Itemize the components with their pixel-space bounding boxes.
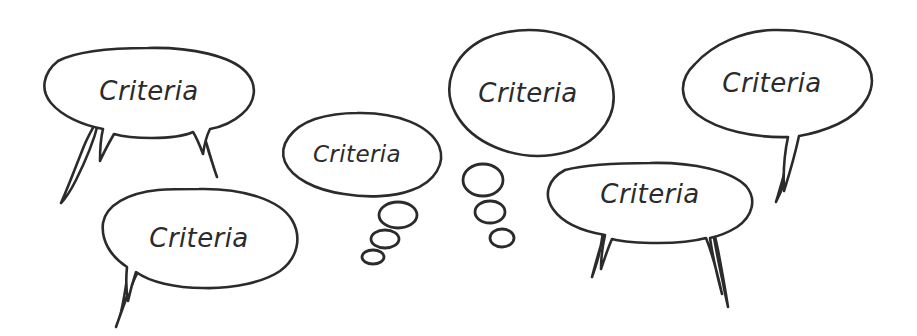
bubble-bottom-left[interactable]: Criteria bbox=[103, 189, 298, 327]
bubble-bottom-right[interactable]: Criteria bbox=[548, 163, 752, 307]
bubble-top-left-tail-left bbox=[61, 121, 98, 203]
thought-dot-center-1 bbox=[463, 164, 503, 196]
diagram-canvas: Criteria Criteria Criteria Criteria bbox=[0, 0, 917, 336]
bubble-top-right-label: Criteria bbox=[722, 68, 821, 98]
bubble-middle-small[interactable]: Criteria bbox=[283, 113, 441, 264]
thought-dot-middle-3 bbox=[362, 250, 384, 264]
bubble-top-right-outline bbox=[683, 30, 872, 191]
bubble-top-left-label: Criteria bbox=[99, 76, 198, 106]
bubble-middle-small-label: Criteria bbox=[313, 141, 401, 167]
thought-dot-center-2 bbox=[475, 201, 505, 223]
thought-dot-center-3 bbox=[490, 229, 514, 247]
bubble-top-left[interactable]: Criteria bbox=[44, 48, 253, 203]
thought-dot-middle-2 bbox=[371, 230, 399, 248]
speech-bubble-diagram: Criteria Criteria Criteria Criteria bbox=[0, 0, 917, 336]
bubble-top-center-label: Criteria bbox=[478, 78, 577, 108]
bubble-bottom-right-label: Criteria bbox=[600, 179, 699, 209]
thought-dot-middle-1 bbox=[379, 202, 417, 228]
bubble-bottom-left-label: Criteria bbox=[149, 223, 248, 253]
